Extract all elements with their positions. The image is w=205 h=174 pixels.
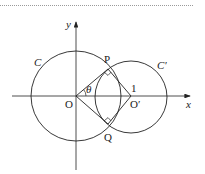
point-p-label: P: [104, 53, 110, 65]
geometry-diagram: y x C C′ P Q O O′ θ 1: [0, 0, 205, 174]
point-o-prime-label: O′: [130, 98, 140, 110]
x-axis-label: x: [185, 98, 191, 110]
right-angle-mark-q: [104, 118, 111, 121]
circle-c-label: C: [34, 56, 42, 68]
kite-opo-q: [76, 69, 131, 124]
angle-theta-label: θ: [86, 83, 92, 95]
y-axis-label: y: [65, 18, 71, 30]
distance-one-label: 1: [131, 82, 137, 94]
point-q-label: Q: [104, 131, 112, 143]
point-o-label: O: [65, 98, 73, 110]
right-angle-mark-p: [104, 72, 111, 75]
circle-c-prime-label: C′: [157, 59, 167, 71]
